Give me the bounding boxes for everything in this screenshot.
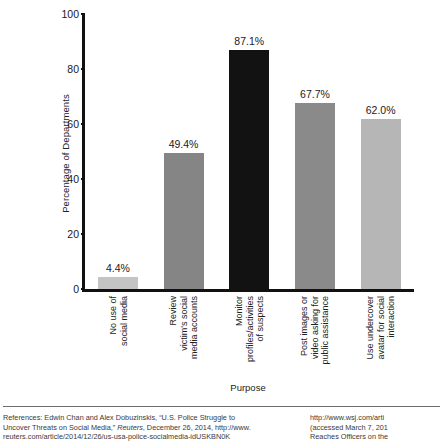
bar-slot: 62.0% <box>361 15 401 290</box>
references-footer: References: Edwin Chan and Alex Dobuzins… <box>0 406 443 445</box>
x-axis-title: Purpose <box>82 382 414 393</box>
bar[interactable] <box>361 119 401 289</box>
y-axis-tick-mark <box>81 288 85 290</box>
reference-column-left: References: Edwin Chan and Alex Dobuzins… <box>3 413 299 442</box>
bar[interactable] <box>164 153 204 289</box>
y-axis-tick-mark <box>81 233 85 235</box>
reference-line: Uncover Threats on Social Media,” Reuter… <box>3 423 299 433</box>
footer-divider <box>3 406 440 407</box>
bar-value-label: 62.0% <box>366 104 396 116</box>
x-axis-tick-label-holder: No use ofsocial media <box>98 296 138 380</box>
bar[interactable] <box>98 277 138 289</box>
bar[interactable] <box>295 103 335 289</box>
reference-line: References: Edwin Chan and Alex Dobuzins… <box>3 413 299 423</box>
reference-line: http://www.wsj.com/arti <box>310 413 443 423</box>
x-axis-tick-label: Post images orvideo asking forpublic ass… <box>300 296 332 365</box>
x-axis-tick-label-holder: Post images orvideo asking forpublic ass… <box>295 296 335 380</box>
x-axis-tick-label: Reviewvictim's socialmedia accounts <box>168 296 200 359</box>
bar-chart-figure: Percentage of Departments 0204060801004.… <box>0 0 443 400</box>
bar-slot: 4.4% <box>98 15 138 290</box>
reference-column-right: http://www.wsj.com/arti(accessed March 7… <box>310 413 443 442</box>
bar-slot: 67.7% <box>295 15 335 290</box>
reference-line: reuters.com/article/2014/12/26/us-usa-po… <box>3 432 299 442</box>
x-axis-tick-label-holder: Reviewvictim's socialmedia accounts <box>164 296 204 380</box>
x-axis-tick-label: Monitorprofiles/activitiesof suspects <box>234 296 266 362</box>
bar-slot: 87.1% <box>229 15 269 290</box>
x-axis-tick-label-holder: Use undercoveravatar for socialinteracti… <box>361 296 401 380</box>
reference-line: (accessed March 7, 201 <box>310 423 443 433</box>
bar-value-label: 4.4% <box>106 262 130 274</box>
bar-value-label: 87.1% <box>234 35 264 47</box>
y-axis-tick-mark <box>81 68 85 70</box>
y-axis-tick-mark <box>81 13 85 15</box>
x-axis-tick-label: Use undercoveravatar for socialinteracti… <box>365 296 397 360</box>
plot-inner: 0204060801004.4%49.4%87.1%67.7%62.0% <box>85 14 414 289</box>
y-axis-tick-mark <box>81 178 85 180</box>
reference-line: Reaches Officers on the <box>310 432 443 442</box>
bar-value-label: 49.4% <box>169 138 199 150</box>
plot-area: 0204060801004.4%49.4%87.1%67.7%62.0% <box>82 14 414 292</box>
y-axis-tick-mark <box>81 123 85 125</box>
x-axis-tick-label: No use ofsocial media <box>108 296 129 346</box>
x-axis-tick-label-holder: Monitorprofiles/activitiesof suspects <box>230 296 270 380</box>
bar[interactable] <box>229 50 269 289</box>
bar-slot: 49.4% <box>164 15 204 290</box>
bar-value-label: 67.7% <box>300 88 330 100</box>
